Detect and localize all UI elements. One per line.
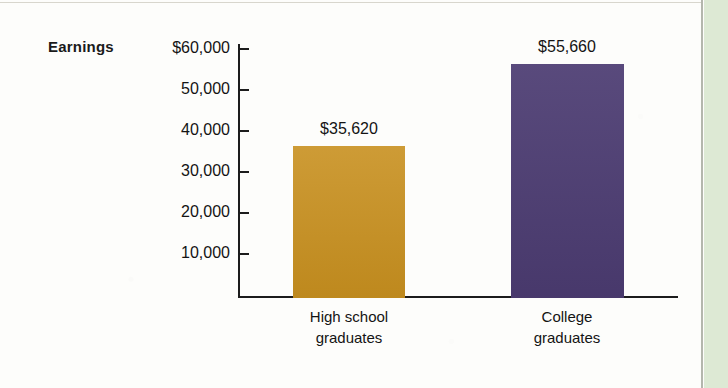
y-axis-tick-label: $60,000 — [130, 39, 230, 57]
y-axis-tick-label: 20,000 — [130, 203, 230, 221]
bar-value-label-college-graduates: $55,660 — [507, 38, 627, 56]
y-axis-tick — [240, 253, 249, 255]
bar-value-label-high-school-graduates: $35,620 — [289, 120, 409, 138]
page-background: Earnings $60,000 50,000 40,000 30,000 20… — [0, 0, 728, 388]
x-axis-category-high-school-graduates: High school graduates — [279, 306, 419, 348]
bar-chart: Earnings $60,000 50,000 40,000 30,000 20… — [0, 0, 704, 388]
bar-college-graduates[interactable] — [511, 64, 624, 298]
bar-high-school-graduates[interactable] — [293, 146, 405, 298]
category-line-2: graduates — [279, 327, 419, 348]
y-axis-tick — [240, 48, 249, 50]
y-axis-tick-label: 50,000 — [130, 80, 230, 98]
page-margin-strip — [704, 0, 728, 388]
category-line-1: College — [497, 306, 637, 327]
y-axis-tick-label: 10,000 — [130, 244, 230, 262]
category-line-2: graduates — [497, 327, 637, 348]
y-axis-title: Earnings — [48, 38, 114, 55]
y-axis-tick — [240, 171, 249, 173]
y-axis-tick-label: 30,000 — [130, 162, 230, 180]
y-axis-tick — [240, 212, 249, 214]
y-axis-tick-label: 40,000 — [130, 121, 230, 139]
page-margin-rule — [701, 0, 703, 388]
category-line-1: High school — [279, 306, 419, 327]
x-axis-category-college-graduates: College graduates — [497, 306, 637, 348]
y-axis-tick — [240, 130, 249, 132]
y-axis-tick — [240, 89, 249, 91]
